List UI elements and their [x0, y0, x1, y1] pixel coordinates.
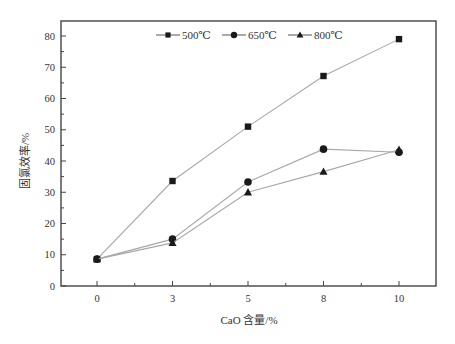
y-tick-label: 0 — [50, 281, 55, 292]
y-tick-label: 50 — [45, 124, 56, 135]
plot-border — [61, 21, 436, 286]
circle-marker-icon — [244, 178, 252, 186]
square-marker-icon — [165, 32, 170, 37]
legend-item: 650℃ — [222, 29, 277, 41]
x-tick-label: 10 — [394, 293, 405, 304]
legend-label: 500℃ — [182, 29, 211, 41]
y-axis-label: 固氯效率/% — [18, 133, 31, 189]
series-line — [97, 150, 399, 259]
square-marker-icon — [169, 178, 175, 184]
x-axis-label: CaO 含量/% — [220, 313, 277, 326]
series-line — [97, 149, 399, 259]
y-tick-label: 30 — [45, 187, 56, 198]
plot-frame — [61, 21, 436, 286]
y-tick-label: 10 — [45, 249, 56, 260]
triangle-marker-icon — [395, 146, 403, 153]
x-tick-label: 5 — [245, 293, 250, 304]
x-tick-label: 3 — [170, 293, 175, 304]
series-800 — [93, 146, 403, 263]
y-tick-label: 70 — [45, 62, 56, 73]
square-marker-icon — [320, 73, 326, 79]
series-500 — [94, 36, 402, 262]
x-tick-label: 0 — [94, 293, 99, 304]
square-marker-icon — [245, 123, 251, 129]
y-tick-label: 80 — [45, 31, 56, 42]
square-marker-icon — [396, 36, 402, 42]
y-tick-label: 40 — [45, 156, 56, 167]
line-chart: 01020304050607080 035810 500℃650℃800℃ Ca… — [0, 0, 455, 344]
x-axis: 035810 — [94, 281, 404, 304]
circle-marker-icon — [231, 32, 237, 38]
series-line — [97, 39, 399, 259]
legend-label: 800℃ — [314, 29, 343, 41]
chart-canvas: 01020304050607080 035810 500℃650℃800℃ Ca… — [0, 0, 455, 344]
circle-marker-icon — [320, 145, 328, 153]
legend-item: 800℃ — [288, 29, 343, 41]
y-tick-label: 20 — [45, 218, 56, 229]
series-layer — [93, 36, 403, 263]
legend-item: 500℃ — [156, 29, 211, 41]
y-axis: 01020304050607080 — [45, 31, 67, 292]
y-tick-label: 60 — [45, 93, 56, 104]
x-tick-label: 8 — [321, 293, 326, 304]
legend-label: 650℃ — [248, 29, 277, 41]
legend: 500℃650℃800℃ — [156, 29, 343, 41]
series-650 — [93, 145, 403, 263]
